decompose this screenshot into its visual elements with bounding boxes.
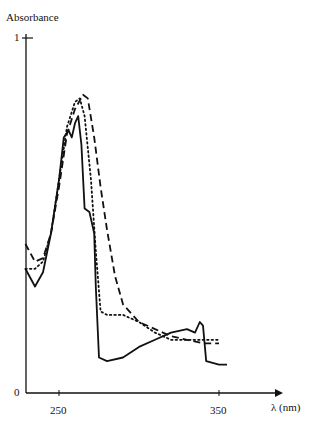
series-dashed [25,95,219,343]
y-axis-label: Absorbance [6,11,59,23]
axes [22,34,283,397]
y-tick-label-1: 1 [14,31,20,43]
series-group [25,95,227,365]
x-axis-label: λ (nm) [271,401,300,413]
x-axis-arrow-icon [275,389,283,397]
x-tick-label-350: 350 [210,404,227,416]
x-tick-label-250: 250 [50,404,67,416]
y-tick-label-0: 0 [14,386,20,398]
chart-canvas [0,0,318,426]
series-solid [25,116,227,365]
